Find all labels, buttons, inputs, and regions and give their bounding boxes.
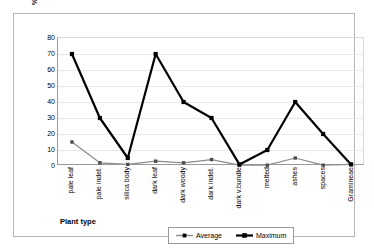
x-axis-tick-label: spaces — [319, 167, 326, 215]
data-point-marker — [293, 100, 297, 104]
y-axis-title: % of deposit area — [29, 0, 40, 36]
legend-label: Maximum — [256, 232, 286, 239]
x-axis-tick-labels: pale leafpale indet.silica bodydark leaf… — [57, 167, 364, 215]
y-axis-tick-label: 20 — [38, 130, 55, 137]
y-axis-tick-label: 80 — [38, 34, 55, 41]
x-axis-tick-label: dark leaf — [151, 167, 158, 215]
y-axis-tick-label: 40 — [38, 98, 55, 105]
x-axis-tick-label: ashes — [291, 167, 298, 215]
legend-label: Average — [196, 232, 222, 239]
x-axis-tick-label: dark woody — [179, 167, 186, 215]
x-axis-tick-label: silica body — [123, 167, 130, 215]
legend-marker-icon — [236, 231, 253, 240]
x-axis-tick-label: melted — [263, 167, 270, 215]
y-axis-tick-label: 30 — [38, 114, 55, 121]
chart-legend: AverageMaximum — [168, 227, 294, 244]
chart-figure: % of deposit area 80706050403020100 pale… — [13, 13, 355, 237]
y-axis-tick-labels: 80706050403020100 — [38, 37, 55, 165]
y-axis-tick-label: 50 — [38, 82, 55, 89]
x-axis-tick-label: Gramineae — [347, 167, 354, 215]
y-axis-tick-label: 70 — [38, 50, 55, 57]
x-axis-tick-label: dark indet. — [207, 167, 214, 215]
legend-entry-maximum: Maximum — [236, 231, 286, 240]
legend-marker-icon — [176, 231, 193, 240]
data-point-marker — [70, 52, 74, 56]
x-axis-tick-label: pale indet. — [95, 167, 102, 215]
y-axis-tick-label: 10 — [38, 146, 55, 153]
data-point-marker — [154, 52, 158, 56]
x-axis-title: Plant type — [60, 217, 96, 226]
x-axis-tick-label: dark v.bundle — [235, 167, 242, 215]
x-axis-tick-label: pale leaf — [67, 167, 74, 215]
data-point-marker — [181, 100, 185, 104]
legend-entry-average: Average — [176, 231, 222, 240]
y-axis-tick-label: 60 — [38, 66, 55, 73]
y-axis-tick-label: 0 — [38, 162, 55, 169]
